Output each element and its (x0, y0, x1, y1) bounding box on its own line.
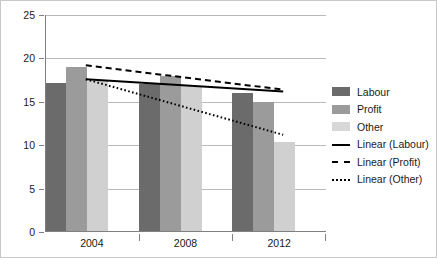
legend-item[interactable]: Linear (Labour) (332, 136, 436, 154)
plot-area (45, 15, 326, 232)
legend-item[interactable]: Linear (Other) (332, 171, 436, 189)
y-tick-mark (39, 145, 44, 146)
chart-figure: 0510152025 200420082012 LabourProfitOthe… (0, 0, 437, 258)
x-tick-label: 2008 (139, 234, 233, 254)
legend-item[interactable]: Profit (332, 101, 436, 119)
y-tick-mark (39, 15, 44, 16)
y-tick-label: 10 (23, 139, 35, 151)
plot-frame (45, 15, 326, 232)
y-tick-label: 0 (29, 226, 35, 238)
x-tick-mark (139, 234, 140, 241)
legend-line-sample (332, 140, 350, 149)
legend-swatch (332, 87, 350, 96)
legend-item[interactable]: Other (332, 118, 436, 136)
y-tick-mark (39, 102, 44, 103)
chart-legend: LabourProfitOtherLinear (Labour)Linear (… (332, 83, 436, 188)
y-axis: 0510152025 (1, 15, 35, 232)
legend-line-sample (332, 175, 350, 184)
legend-line-sample (332, 157, 350, 166)
x-tick-label: 2004 (45, 234, 139, 254)
legend-swatch (332, 122, 350, 131)
x-axis: 200420082012 (45, 234, 326, 254)
legend-item[interactable]: Labour (332, 83, 436, 101)
legend-label: Profit (357, 103, 382, 115)
y-tick-label: 15 (23, 96, 35, 108)
legend-label: Linear (Other) (357, 173, 422, 185)
y-tick-mark (39, 232, 44, 233)
x-tick-mark (325, 234, 326, 241)
y-tick-mark (39, 189, 44, 190)
legend-item[interactable]: Linear (Profit) (332, 153, 436, 171)
y-tick-mark (39, 58, 44, 59)
legend-label: Linear (Labour) (357, 138, 429, 150)
legend-label: Labour (357, 86, 390, 98)
x-tick-mark (232, 234, 233, 241)
legend-label: Other (357, 121, 383, 133)
legend-swatch (332, 105, 350, 114)
legend-label: Linear (Profit) (357, 156, 421, 168)
y-tick-label: 5 (29, 183, 35, 195)
y-tick-label: 20 (23, 52, 35, 64)
x-tick-label: 2012 (232, 234, 326, 254)
y-tick-label: 25 (23, 9, 35, 21)
